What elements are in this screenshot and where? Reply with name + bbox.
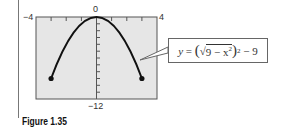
right-endpoint — [139, 76, 144, 81]
x-min-label: −4 — [23, 13, 33, 22]
equation-tail: − 9 — [241, 45, 258, 57]
y-min-label: −12 — [88, 102, 103, 111]
equation-radicand: 9 − x2 — [206, 44, 232, 58]
graph-plot — [0, 0, 284, 130]
left-endpoint — [49, 76, 54, 81]
equation-equals: = — [183, 45, 195, 57]
x-max-label: 4 — [159, 13, 164, 22]
equation-callout: y = ( √ 9 − x2 )2 − 9 — [168, 38, 268, 63]
y-max-label: 0 — [93, 5, 98, 14]
figure-caption: Figure 1.35 — [22, 116, 67, 127]
